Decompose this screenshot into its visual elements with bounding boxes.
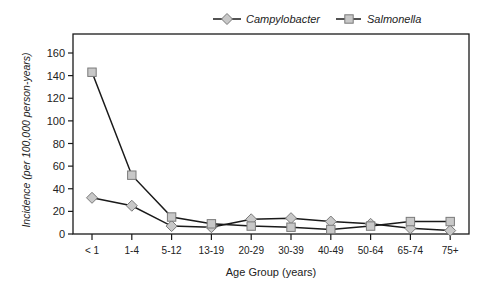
square-marker-icon — [167, 213, 175, 221]
diamond-icon — [222, 14, 233, 25]
x-tick-label: 1-4 — [125, 245, 140, 256]
square-marker-icon — [446, 217, 454, 225]
diamond-marker-icon — [286, 213, 297, 224]
x-tick-label: 13-19 — [199, 245, 225, 256]
square-marker-icon — [88, 68, 96, 76]
legend: CampylobacterSalmonella — [213, 13, 421, 25]
markers-salmonella — [88, 68, 455, 234]
y-tick-label: 0 — [59, 228, 65, 240]
y-tick-label: 20 — [53, 205, 65, 217]
square-marker-icon — [287, 223, 295, 231]
y-tick-label: 60 — [53, 160, 65, 172]
x-axis-title: Age Group (years) — [226, 266, 316, 278]
square-marker-icon — [128, 171, 136, 179]
series-line — [92, 72, 450, 229]
x-tick-label: 75+ — [442, 245, 459, 256]
line-chart-svg: CampylobacterSalmonella 0204060801001201… — [0, 0, 489, 289]
square-icon — [345, 15, 353, 23]
x-axis: < 11-45-1213-1920-2930-3940-4950-6465-74… — [85, 234, 459, 256]
markers-campylobacter — [87, 192, 456, 236]
x-tick-label: < 1 — [85, 245, 100, 256]
square-marker-icon — [366, 222, 374, 230]
series-layer — [87, 68, 456, 236]
diamond-marker-icon — [126, 200, 137, 211]
y-axis: 020406080100120140160 — [47, 47, 73, 240]
square-marker-icon — [207, 220, 215, 228]
x-tick-label: 30-39 — [278, 245, 304, 256]
square-marker-icon — [406, 217, 414, 225]
legend-item-salmonella: Salmonella — [336, 13, 421, 25]
legend-label: Salmonella — [367, 13, 421, 25]
x-tick-label: 50-64 — [358, 245, 384, 256]
square-marker-icon — [327, 225, 335, 233]
y-tick-label: 120 — [47, 92, 65, 104]
y-tick-label: 140 — [47, 70, 65, 82]
series-line — [92, 198, 450, 231]
y-axis-title: Incidence (per 100,000 person-years) — [20, 52, 32, 227]
legend-label: Campylobacter — [246, 13, 321, 25]
y-tick-label: 160 — [47, 47, 65, 59]
series-campylobacter — [92, 198, 450, 231]
square-marker-icon — [247, 222, 255, 230]
x-tick-label: 5-12 — [162, 245, 182, 256]
x-tick-label: 40-49 — [318, 245, 344, 256]
y-tick-label: 40 — [53, 183, 65, 195]
chart: CampylobacterSalmonella 0204060801001201… — [0, 0, 489, 289]
y-tick-label: 80 — [53, 138, 65, 150]
x-tick-label: 65-74 — [398, 245, 424, 256]
legend-item-campylobacter: Campylobacter — [213, 13, 321, 25]
diamond-marker-icon — [87, 192, 98, 203]
diamond-marker-icon — [166, 221, 177, 232]
series-salmonella — [92, 72, 450, 229]
y-tick-label: 100 — [47, 115, 65, 127]
x-tick-label: 20-29 — [238, 245, 264, 256]
